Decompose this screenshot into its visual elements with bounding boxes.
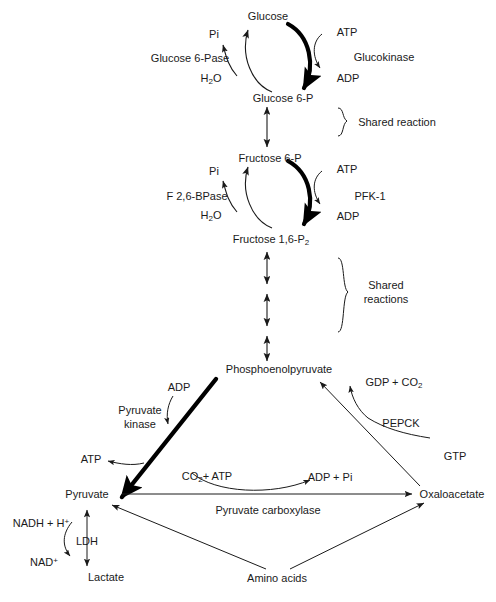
node-glucose-6-p: Glucose 6-P xyxy=(253,92,314,105)
arc-glucose-to-g6p-bold xyxy=(288,24,310,88)
cofactor-atp-top: ATP xyxy=(337,26,358,39)
cofactor-gtp: GTP xyxy=(444,450,467,463)
cofactor-co2-atp: CO2+ ATP xyxy=(182,470,232,484)
cofactor-h2o-mid-h: H xyxy=(201,209,209,221)
cofactor-nadh-h: NADH + H+ xyxy=(13,517,69,530)
cofactor-adp-top: ADP xyxy=(337,72,360,85)
cofactor-pi-top: Pi xyxy=(209,28,219,41)
node-glucose: Glucose xyxy=(248,10,288,23)
enzyme-ldh: LDH xyxy=(76,535,98,548)
arc-atp-to-adp-top xyxy=(314,34,322,68)
node-amino-acids: Amino acids xyxy=(247,572,307,585)
arc-atp-out-pk xyxy=(108,461,144,464)
node-fructose-1-6-p2: Fructose 1,6-P2 xyxy=(233,233,310,247)
cofactor-gdp-co2-sub: 2 xyxy=(418,381,422,390)
enzyme-glucose-6-pase: Glucose 6-Pase xyxy=(151,52,229,65)
enzyme-pyruvate-kinase: Pyruvatekinase xyxy=(118,404,161,432)
cofactor-nadh-h-sup: + xyxy=(64,517,69,526)
cofactor-h2o-top: H2O xyxy=(201,72,222,86)
pathway-diagram: Glucose Glucose 6-P Fructose 6-P Fructos… xyxy=(0,0,496,602)
cofactor-nadh-h-text: NADH + H xyxy=(13,517,65,529)
cofactor-gdp-co2: GDP + CO2 xyxy=(365,376,422,390)
arc-f16p2-to-f6p xyxy=(245,167,272,228)
node-fructose-1-6-p2-subscript: 2 xyxy=(305,238,309,247)
cofactor-adp-pyruvate-kinase: ADP xyxy=(168,381,191,394)
arc-adp-into-pk xyxy=(167,396,173,424)
cofactor-gdp-co2-text: GDP + CO xyxy=(365,376,418,388)
node-oxaloacetate: Oxaloacetate xyxy=(420,488,485,501)
node-fructose-6-p: Fructose 6-P xyxy=(239,152,302,165)
cofactor-adp-pi: ADP + Pi xyxy=(308,471,353,484)
annotation-shared-reactions-line2: reactions xyxy=(364,293,409,305)
cofactor-h2o-top-h: H xyxy=(201,72,209,84)
arc-g6p-to-glucose xyxy=(245,30,272,92)
enzyme-glucokinase: Glucokinase xyxy=(354,51,415,64)
node-lactate: Lactate xyxy=(88,571,124,584)
cofactor-atp-pyruvate-kinase: ATP xyxy=(81,453,102,466)
annotation-shared-reaction: Shared reaction xyxy=(358,116,436,129)
cofactor-nad-text: NAD xyxy=(30,556,53,568)
enzyme-pepck: PEPCK xyxy=(382,417,419,430)
cofactor-h2o-mid: H2O xyxy=(201,209,222,223)
cofactor-pi-mid: Pi xyxy=(209,165,219,178)
cofactor-nad-sup: + xyxy=(53,556,58,565)
arc-atp-to-adp-mid xyxy=(314,171,322,204)
cofactor-h2o-mid-o: O xyxy=(213,209,222,221)
arc-gdp-co2-out-pepck xyxy=(350,386,368,418)
node-pyruvate: Pyruvate xyxy=(65,488,108,501)
cofactor-adp-mid: ADP xyxy=(337,210,360,223)
brace-shared-reactions xyxy=(338,258,348,332)
brace-shared-reaction xyxy=(338,108,347,136)
enzyme-pfk-1: PFK-1 xyxy=(354,190,385,203)
cofactor-nad: NAD+ xyxy=(30,556,58,569)
node-fructose-1-6-p2-text: Fructose 1,6-P xyxy=(233,233,305,245)
cofactor-co2-atp-co: CO xyxy=(182,470,199,482)
annotation-shared-reactions-line1: Shared xyxy=(368,279,403,291)
cofactor-co2-atp-post: + ATP xyxy=(203,470,232,482)
enzyme-pyruvate-carboxylase: Pyruvate carboxylase xyxy=(215,504,320,517)
node-phosphoenolpyruvate: Phosphoenolpyruvate xyxy=(226,363,332,376)
cofactor-atp-mid: ATP xyxy=(337,163,358,176)
enzyme-pyruvate-kinase-line2: kinase xyxy=(124,418,156,430)
enzyme-pyruvate-kinase-line1: Pyruvate xyxy=(118,404,161,416)
annotation-shared-reactions: Sharedreactions xyxy=(364,279,409,307)
enzyme-f-2-6-bpase: F 2,6-BPase xyxy=(166,190,227,203)
arc-f6p-to-f16p2-bold xyxy=(288,161,310,224)
cofactor-h2o-top-o: O xyxy=(213,72,222,84)
